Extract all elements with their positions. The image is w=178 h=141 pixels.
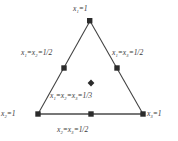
label-left-edge-midpoint: x₁=x₂=1/2: [21, 49, 52, 57]
bottom-right-vertex-node: [140, 111, 145, 116]
node-markers: [35, 18, 145, 117]
apex-vertex-node: [87, 18, 92, 23]
label-apex-vertex: x₁=1: [73, 5, 88, 13]
label-centroid: x₁=x₂=x₃=1/3: [50, 92, 92, 100]
label-right-edge-midpoint: x₁=x₃=1/2: [112, 49, 143, 57]
triangle-edges: [38, 21, 143, 114]
label-bottom-edge-midpoint: x₂=x₃=1/2: [57, 126, 88, 134]
right-edge-midpoint-node: [114, 65, 119, 70]
simplex-diagram: x₁=1 x₂=1 x₃=1 x₁=x₂=1/2 x₁=x₃=1/2 x₂=x₃…: [0, 0, 178, 141]
centroid-node: [88, 80, 95, 87]
bottom-edge-midpoint-node: [88, 111, 93, 116]
diagram-canvas: [0, 0, 178, 141]
label-bottom-right-vertex: x₃=1: [147, 110, 162, 118]
label-bottom-left-vertex: x₂=1: [1, 110, 16, 118]
bottom-left-vertex-node: [35, 111, 40, 116]
left-edge-midpoint-node: [61, 65, 66, 70]
